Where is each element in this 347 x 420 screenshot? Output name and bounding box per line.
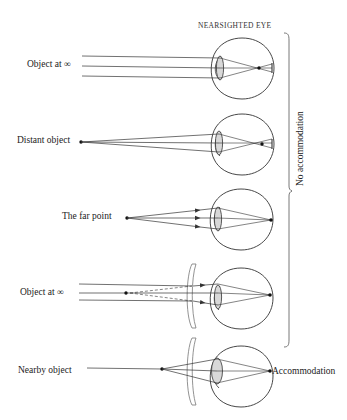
crystalline-lens [214,285,221,309]
eye-row-1 [82,38,274,99]
retina-focus-point [269,218,273,222]
crystalline-lens [214,207,221,231]
retina-focus-point [268,369,272,373]
diagram-graphics [0,0,347,420]
retina-focus-point [268,293,272,297]
nearsighted-eye-diagram: NEARSIGHTED EYE Object at ∞ Distant obje… [0,0,347,420]
focus-point [257,66,260,69]
eye-row-4 [79,264,273,329]
eye-row-5 [87,338,273,407]
corrective-diverging-lens [187,338,196,405]
corrective-diverging-lens [187,264,196,328]
eye-row-3 [125,189,273,250]
no-accommodation-brace [284,33,292,347]
eye-row-2 [79,114,274,175]
focus-point [260,142,263,145]
virtual-image-point [124,291,127,294]
